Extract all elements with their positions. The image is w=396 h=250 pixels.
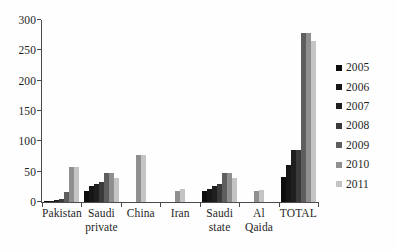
x-axis-label-line1: Iran [171,207,190,219]
legend-label: 2008 [346,119,369,132]
bar-group [81,20,120,202]
bar-group [160,20,199,202]
y-tick-50: 50 [0,165,41,179]
x-axis-label-al-qaida: Al Qaida [239,205,278,249]
x-axis-label-line1: Saudi [206,207,233,219]
legend-swatch-icon [336,181,342,187]
y-tick-label: 100 [18,134,41,148]
x-axis-label-saudi-state: Saudistate [200,205,239,249]
bar [259,190,264,202]
bar [114,178,119,202]
legend-label: 2005 [346,61,369,74]
x-axis-labels: PakistanSaudiprivateChinaIranSaudistateA… [42,205,318,249]
legend-swatch-icon [336,103,342,109]
legend-item-2007[interactable]: 2007 [336,97,396,116]
chart-legend: 2005200620072008200920102011 [336,58,396,198]
bar [311,41,316,202]
x-axis-label-china: China [121,205,160,249]
legend-label: 2011 [346,178,369,191]
legend-swatch-icon [336,84,342,90]
x-axis-label-saudi-private: Saudiprivate [82,205,121,249]
x-axis-label-line2: state [200,221,239,235]
y-tick-label: 0 [30,195,41,209]
legend-label: 2009 [346,139,369,152]
y-tick-mark [37,110,41,111]
x-tick-mark [318,202,319,207]
bar-groups [42,20,318,202]
x-axis-label-line1: TOTAL [280,207,317,219]
y-tick-label: 200 [18,74,41,88]
bar [74,167,79,202]
y-tick-label: 50 [24,165,41,179]
y-tick-label: 300 [18,13,41,27]
bar [232,178,237,202]
legend-label: 2006 [346,81,369,94]
legend-item-2008[interactable]: 2008 [336,116,396,135]
legend-item-2006[interactable]: 2006 [336,77,396,96]
y-tick-mark [37,201,41,202]
legend-swatch-icon [336,162,342,168]
bar-group [200,20,239,202]
x-axis-label-line1: Al Qaida [245,207,273,233]
y-tick-label: 150 [18,104,41,118]
bar-group [279,20,318,202]
y-tick-200: 200 [0,74,41,88]
y-tick-mark [37,19,41,20]
legend-item-2011[interactable]: 2011 [336,174,396,193]
legend-swatch-icon [336,123,342,129]
bar [141,155,146,202]
y-tick-150: 150 [0,104,41,118]
bar-chart: 300250200150100500 PakistanSaudiprivateC… [0,0,396,250]
x-axis-label-line1: Pakistan [42,207,82,219]
y-tick-mark [37,49,41,50]
bar-group [42,20,81,202]
y-tick-mark [37,140,41,141]
bar-group [239,20,278,202]
legend-label: 2007 [346,100,369,113]
y-tick-300: 300 [0,13,41,27]
y-tick-250: 250 [0,43,41,57]
x-axis-label-line2: private [82,221,121,235]
legend-item-2010[interactable]: 2010 [336,155,396,174]
bar-group [121,20,160,202]
y-tick-mark [37,80,41,81]
bar [180,189,185,202]
legend-item-2009[interactable]: 2009 [336,136,396,155]
x-axis-label-iran: Iran [161,205,200,249]
y-tick-mark [37,171,41,172]
y-tick-100: 100 [0,134,41,148]
y-tick-label: 250 [18,43,41,57]
legend-swatch-icon [336,142,342,148]
y-tick-0: 0 [0,195,41,209]
legend-label: 2010 [346,158,369,171]
legend-item-2005[interactable]: 2005 [336,58,396,77]
y-axis-ticks: 300250200150100500 [0,0,41,250]
legend-swatch-icon [336,65,342,71]
x-axis-label-pakistan: Pakistan [42,205,82,249]
x-axis-label-line1: Saudi [88,207,115,219]
x-axis-label-line1: China [127,207,155,219]
x-axis-label-total: TOTAL [279,205,318,249]
